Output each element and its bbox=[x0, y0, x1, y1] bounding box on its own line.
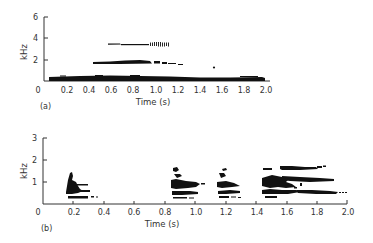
panel-b-xlabel: Time (s) bbox=[144, 219, 180, 229]
panel-b-xtick: 1.6 bbox=[281, 208, 294, 217]
panel-a-xtick: 2.0 bbox=[260, 86, 273, 95]
panel-b-xtick: 0 bbox=[35, 208, 40, 217]
panel-b-ylabel: kHz bbox=[19, 163, 29, 179]
panel-a-ytick-2: 2 bbox=[33, 56, 38, 65]
panel-b-xtick: 1.2 bbox=[220, 208, 233, 217]
panel-b-xtick: 0.8 bbox=[159, 208, 172, 217]
panel-a-spectrogram bbox=[49, 42, 265, 81]
panel-a-xtick: 0.8 bbox=[127, 86, 140, 95]
panel-b-xtick: 0.2 bbox=[68, 208, 81, 217]
panel-a: 6 4 2 kHz 0 0.2 0.4 0.6 0.8 1.0 1.2 1.4 … bbox=[19, 13, 272, 111]
panel-a-ytick-4: 4 bbox=[33, 34, 38, 43]
panel-b-xtick: 1.8 bbox=[311, 208, 324, 217]
panel-b-xtick: 2.0 bbox=[342, 208, 355, 217]
panel-b-xtick: 0.6 bbox=[128, 208, 141, 217]
panel-a-ytick-6: 6 bbox=[33, 13, 38, 22]
panel-a-xtick: 1.6 bbox=[216, 86, 229, 95]
panel-b-ytick-1: 1 bbox=[32, 178, 37, 187]
panel-b-ytick-3: 3 bbox=[32, 134, 37, 143]
panel-b-xtick: 1.4 bbox=[251, 208, 264, 217]
panel-b: 3 2 1 kHz 0 0.2 0.4 0.6 0.8 1.0 1.2 1.4 … bbox=[19, 134, 354, 233]
panel-a-xtick: 0.6 bbox=[105, 86, 118, 95]
panel-b-xtick: 0.4 bbox=[98, 208, 111, 217]
panel-b-label: (b) bbox=[41, 224, 52, 233]
panel-b-spectrogram bbox=[66, 166, 347, 199]
panel-a-xtick: 1.8 bbox=[238, 86, 251, 95]
panel-a-xtick: 1.2 bbox=[172, 86, 185, 95]
panel-a-ylabel: kHz bbox=[19, 44, 29, 60]
panel-a-xtick: 1.4 bbox=[194, 86, 207, 95]
panel-a-xtick: 1.0 bbox=[150, 86, 163, 95]
panel-b-xtick: 1.0 bbox=[190, 208, 203, 217]
panel-a-axes bbox=[44, 17, 270, 81]
panel-a-xtick: 0.2 bbox=[61, 86, 74, 95]
panel-b-ytick-2: 2 bbox=[32, 156, 37, 165]
panel-a-label: (a) bbox=[40, 102, 51, 111]
panel-a-xtick: 0.4 bbox=[83, 86, 96, 95]
panel-a-xtick: 0 bbox=[35, 86, 40, 95]
panel-a-xlabel: Time (s) bbox=[135, 97, 171, 107]
spectrogram-figure: 6 4 2 kHz 0 0.2 0.4 0.6 0.8 1.0 1.2 1.4 … bbox=[0, 0, 373, 243]
